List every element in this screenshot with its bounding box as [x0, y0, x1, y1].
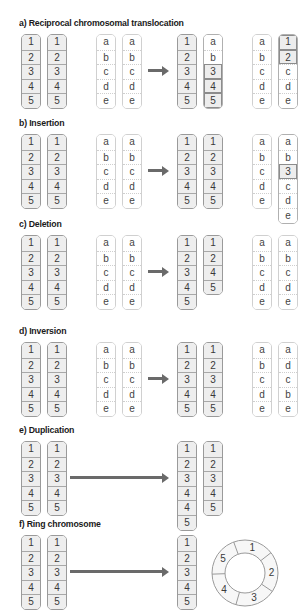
chromosome-before-lettered-1: abcde: [96, 235, 116, 310]
chromosome-segment: 2: [22, 251, 40, 266]
chromosome-segment: 1: [178, 442, 196, 457]
chromosome-segment: 1: [178, 135, 196, 150]
chromosome-segment: 4: [48, 79, 66, 94]
chromosome-segment: d: [97, 280, 115, 295]
chromosome-segment: c: [253, 265, 271, 280]
chromosome-segment: 3: [178, 265, 196, 280]
chromosome-after-numbered-2: 12345: [203, 134, 223, 209]
chromosome-segment: 3: [22, 565, 40, 580]
chromosome-segment: d: [279, 358, 297, 373]
chromosome-before-lettered-1: abcde: [96, 34, 116, 109]
chromosome-segment: 1: [204, 236, 222, 251]
chromosome-after-numbered-1: 12345: [177, 235, 197, 310]
chromosome-segment: c: [279, 64, 297, 79]
chromosome-before-lettered-2: abcde: [122, 134, 142, 209]
chromosome-segment: 2: [22, 551, 40, 566]
chromosome-segment: b: [279, 387, 297, 402]
chromosome-segment: e: [253, 193, 271, 208]
chromosome-after-numbered-2: 1245: [203, 235, 223, 295]
chromosome-after-lettered-2: abcde: [278, 235, 298, 310]
chromosome-segment: 3: [48, 372, 66, 387]
chromosome-segment: 5: [178, 515, 196, 530]
chromosome-segment: 2: [178, 358, 196, 373]
chromosome-segment: 1: [48, 536, 66, 551]
chromosome-after-lettered-1: abcde: [252, 235, 272, 310]
chromosome-segment: b: [97, 251, 115, 266]
chromosome-segment: 4: [178, 280, 196, 295]
chromosome-segment: a: [123, 135, 141, 150]
chromosome-segment: 2: [22, 457, 40, 472]
chromosome-segment: 4: [178, 486, 196, 501]
chromosome-segment: e: [97, 93, 115, 108]
chromosome-segment: 4: [178, 500, 196, 515]
chromosome-before-numbered-1: 12345: [21, 441, 41, 516]
chromosome-segment: 1: [204, 343, 222, 358]
chromosome-segment: d: [97, 387, 115, 402]
chromosome-segment: c: [97, 64, 115, 79]
chromosome-segment: 1: [279, 35, 297, 50]
chromosome-segment: b: [97, 150, 115, 165]
chromosome-segment: 3: [48, 471, 66, 486]
chromosome-segment: 2: [204, 150, 222, 165]
chromosome-after-numbered-2: 12345: [203, 441, 223, 516]
chromosome-after-lettered-2: ab3cde: [278, 134, 298, 224]
chromosome-segment: a: [123, 35, 141, 50]
arrow-right-icon: [70, 476, 163, 479]
chromosome-segment: b: [279, 251, 297, 266]
chromosome-before-lettered-2: abcde: [122, 342, 142, 417]
chromosome-segment: d: [97, 79, 115, 94]
chromosome-segment: b: [253, 50, 271, 65]
ring-segment-label: 2: [269, 567, 275, 578]
chromosome-segment: 4: [22, 387, 40, 402]
chromosome-segment: 2: [22, 358, 40, 373]
chromosome-segment: d: [123, 280, 141, 295]
chromosome-segment: a: [253, 236, 271, 251]
chromosome-segment: 2: [48, 50, 66, 65]
chromosome-segment: 1: [178, 343, 196, 358]
chromosome-segment: e: [279, 294, 297, 309]
chromosome-segment: d: [123, 179, 141, 194]
chromosome-segment: 2: [178, 150, 196, 165]
chromosome-segment: 2: [48, 358, 66, 373]
chromosome-segment: e: [279, 401, 297, 416]
chromosome-segment: d: [253, 280, 271, 295]
chromosome-segment: b: [123, 150, 141, 165]
chromosome-segment: 5: [48, 93, 66, 108]
chromosome-segment: 3: [48, 164, 66, 179]
chromosome-segment: a: [97, 343, 115, 358]
chromosome-segment: a: [97, 135, 115, 150]
chromosome-segment: c: [279, 265, 297, 280]
chromosome-segment: b: [279, 150, 297, 165]
chromosome-segment: 1: [48, 135, 66, 150]
chromosome-segment: e: [123, 294, 141, 309]
chromosome-segment: e: [253, 294, 271, 309]
chromosome-segment: c: [123, 164, 141, 179]
chromosome-segment: 3: [279, 164, 297, 179]
chromosome-segment: d: [97, 179, 115, 194]
arrow-right-icon: [148, 69, 163, 72]
chromosome-segment: 4: [48, 179, 66, 194]
chromosome-segment: 1: [204, 135, 222, 150]
chromosome-segment: c: [253, 64, 271, 79]
chromosome-segment: e: [97, 401, 115, 416]
arrow-right-icon: [70, 570, 163, 573]
chromosome-segment: 4: [22, 486, 40, 501]
chromosome-segment: 2: [48, 457, 66, 472]
chromosome-segment: 1: [48, 35, 66, 50]
chromosome-segment: 2: [48, 551, 66, 566]
chromosome-before-lettered-1: abcde: [96, 134, 116, 209]
chromosome-segment: c: [123, 265, 141, 280]
chromosome-segment: 3: [22, 471, 40, 486]
chromosome-segment: e: [253, 401, 271, 416]
chromosome-segment: 3: [48, 265, 66, 280]
chromosome-before-numbered-1: 12345: [21, 535, 41, 610]
section-title: e) Duplication: [19, 424, 74, 435]
section-title: f) Ring chromosome: [19, 518, 101, 529]
chromosome-segment: a: [123, 343, 141, 358]
chromosome-segment: a: [253, 35, 271, 50]
chromosome-before-numbered-1: 12345: [21, 134, 41, 209]
chromosome-segment: 4: [178, 387, 196, 402]
chromosome-segment: b: [253, 358, 271, 373]
chromosome-after-numbered-2: 12345: [203, 342, 223, 417]
chromosome-before-numbered-1: 12345: [21, 235, 41, 310]
